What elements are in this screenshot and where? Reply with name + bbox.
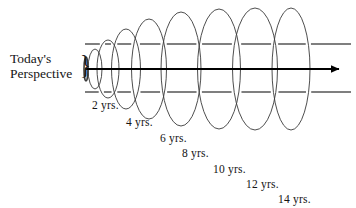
year-label: 6 yrs. (160, 132, 187, 144)
year-label: 2 yrs. (92, 99, 119, 111)
year-label: 8 yrs. (182, 147, 209, 159)
perspective-label: Today's Perspective (10, 52, 72, 81)
perspective-cone-diagram: Today's Perspective } 2 yrs.4 yrs.6 yrs.… (0, 0, 356, 208)
year-label: 12 yrs. (246, 178, 279, 190)
year-label: 4 yrs. (126, 116, 153, 128)
perspective-label-line2: Perspective (10, 67, 72, 82)
curly-brace-icon: } (80, 52, 91, 79)
cone-drawing (0, 0, 356, 208)
year-label: 10 yrs. (213, 163, 246, 175)
year-label: 14 yrs. (278, 193, 311, 205)
perspective-label-line1: Today's (10, 52, 72, 67)
